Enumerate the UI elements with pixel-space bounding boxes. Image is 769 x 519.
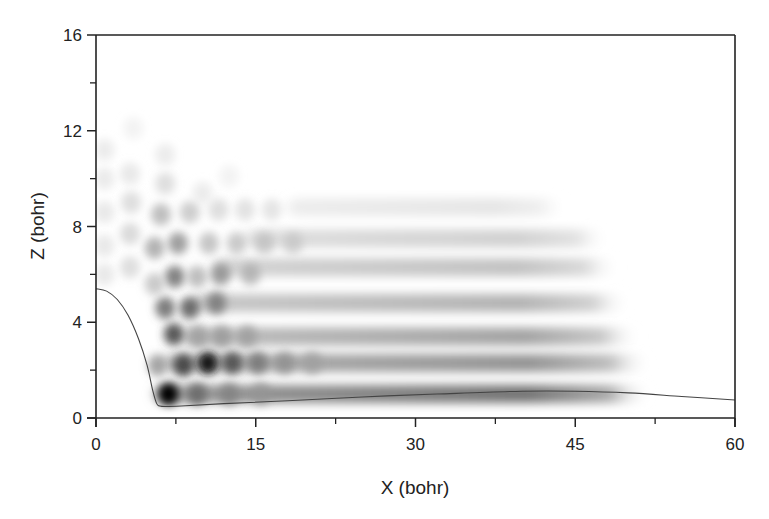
density-blob [302,352,322,374]
density-blob [145,273,165,295]
density-blob [155,297,175,319]
density-blob [188,326,208,348]
density-blob [95,201,115,223]
density-blob [222,352,242,374]
x-axis-ticks: 015304560 [91,418,744,454]
y-tick-label: 12 [63,122,82,141]
density-blob [121,192,141,214]
density-blob [120,223,140,245]
density-blob [120,256,140,278]
density-blob [165,266,185,288]
density-blob [237,326,257,348]
y-tick-label: 4 [73,313,82,332]
density-blob [95,263,115,285]
density-blob [95,168,115,190]
density-blob [187,266,207,288]
density-blob [151,204,171,226]
density-blob [219,383,239,405]
density-blob [95,139,115,161]
density-blob [212,326,232,348]
density-band [192,294,629,312]
x-tick-label: 15 [246,435,265,454]
density-blob [262,199,282,221]
density-blob [155,144,175,166]
density-blob [275,352,295,374]
y-tick-label: 0 [73,409,82,428]
x-tick-label: 60 [726,435,745,454]
density-blob [180,297,200,319]
density-blob [95,235,115,257]
density-chart: 015304560 0481216 X (bohr) Z (bohr) [0,0,769,519]
density-band [213,258,618,276]
x-tick-label: 30 [406,435,425,454]
density-blob [145,237,165,259]
density-blob [211,263,231,285]
x-axis-label: X (bohr) [381,477,450,498]
y-tick-label: 16 [63,26,82,45]
density-band [288,198,565,216]
density-blob [148,354,168,376]
density-blob [168,232,188,254]
density-map [95,117,650,405]
density-blob [193,182,213,204]
density-blob [227,232,247,254]
density-blob [206,292,226,314]
density-blob [187,383,207,405]
density-blob [198,352,218,374]
density-blob [240,263,260,285]
density-blob [123,117,143,139]
x-tick-label: 45 [566,435,585,454]
density-blob [164,323,184,345]
density-blob [173,354,193,376]
y-tick-label: 8 [73,218,82,237]
density-blob [219,165,239,187]
density-blob [199,232,219,254]
y-axis-label: Z (bohr) [27,192,48,260]
x-tick-label: 0 [91,435,100,454]
y-axis-ticks: 0481216 [63,26,96,428]
density-blob [155,172,175,194]
density-blob [254,232,274,254]
density-blob [120,163,140,185]
density-blob [158,383,178,405]
density-blob [180,201,200,223]
density-blob [235,199,255,221]
density-blob [283,232,303,254]
density-blob [248,352,268,374]
density-blob [208,199,228,221]
